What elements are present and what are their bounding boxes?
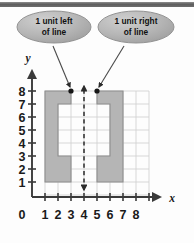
marked-point-right bbox=[94, 88, 99, 93]
y-tick-label-1: 1 bbox=[19, 176, 26, 190]
left-bracket-shape bbox=[45, 91, 71, 182]
y-tick-label-2: 2 bbox=[19, 163, 26, 177]
callout-left-line2: of line bbox=[42, 27, 67, 37]
callout-right[interactable]: 1 unit right of line bbox=[98, 11, 174, 43]
x-tick-label-4: 4 bbox=[81, 208, 88, 222]
callout-right-line1: 1 unit right bbox=[115, 16, 158, 26]
x-tick-label-2: 2 bbox=[55, 208, 62, 222]
x-tick-label-8: 8 bbox=[133, 208, 140, 222]
leader-line-right bbox=[99, 46, 124, 87]
x-tick-label-7: 7 bbox=[120, 208, 127, 222]
right-bracket-shape bbox=[97, 91, 123, 182]
figure-page: 8 7 6 5 4 3 2 1 0 1 2 3 4 5 6 7 8 y x 1 … bbox=[0, 0, 194, 243]
x-tick-label-3: 3 bbox=[68, 208, 75, 222]
leader-line-left bbox=[53, 46, 70, 87]
callout-left-line1: 1 unit left bbox=[36, 16, 73, 26]
y-tick-label-4: 4 bbox=[19, 137, 26, 151]
coordinate-plane-figure: 8 7 6 5 4 3 2 1 0 1 2 3 4 5 6 7 8 y x 1 … bbox=[0, 0, 194, 243]
marked-point-left bbox=[68, 88, 73, 93]
callout-right-line2: of line bbox=[124, 27, 149, 37]
y-tick-label-5: 5 bbox=[19, 124, 26, 138]
y-axis-label: y bbox=[23, 52, 31, 65]
x-axis-label: x bbox=[168, 192, 175, 204]
y-tick-label-6: 6 bbox=[19, 111, 26, 125]
callout-left[interactable]: 1 unit left of line bbox=[17, 11, 91, 43]
x-tick-label-6: 6 bbox=[107, 208, 114, 222]
y-tick-label-7: 7 bbox=[19, 98, 26, 112]
y-tick-label-8: 8 bbox=[19, 85, 26, 99]
x-tick-label-5: 5 bbox=[94, 208, 101, 222]
origin-label-0: 0 bbox=[19, 208, 26, 222]
x-tick-label-1: 1 bbox=[42, 208, 49, 222]
y-tick-label-3: 3 bbox=[19, 150, 26, 164]
